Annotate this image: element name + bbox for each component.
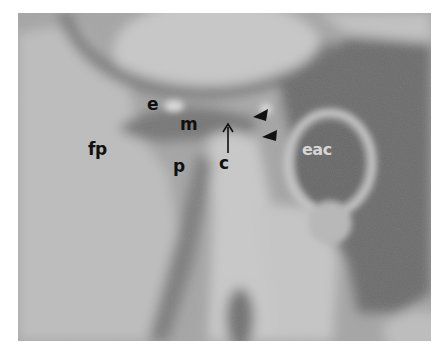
label-fp: fp (88, 141, 107, 158)
radiograph-shading (18, 13, 431, 341)
label-c: c (219, 155, 229, 172)
label-p: p (173, 158, 185, 175)
label-e: e (147, 96, 158, 113)
label-m: m (180, 116, 197, 133)
radiograph-image: e m fp p c eac (18, 13, 431, 341)
label-eac: eac (302, 141, 332, 158)
